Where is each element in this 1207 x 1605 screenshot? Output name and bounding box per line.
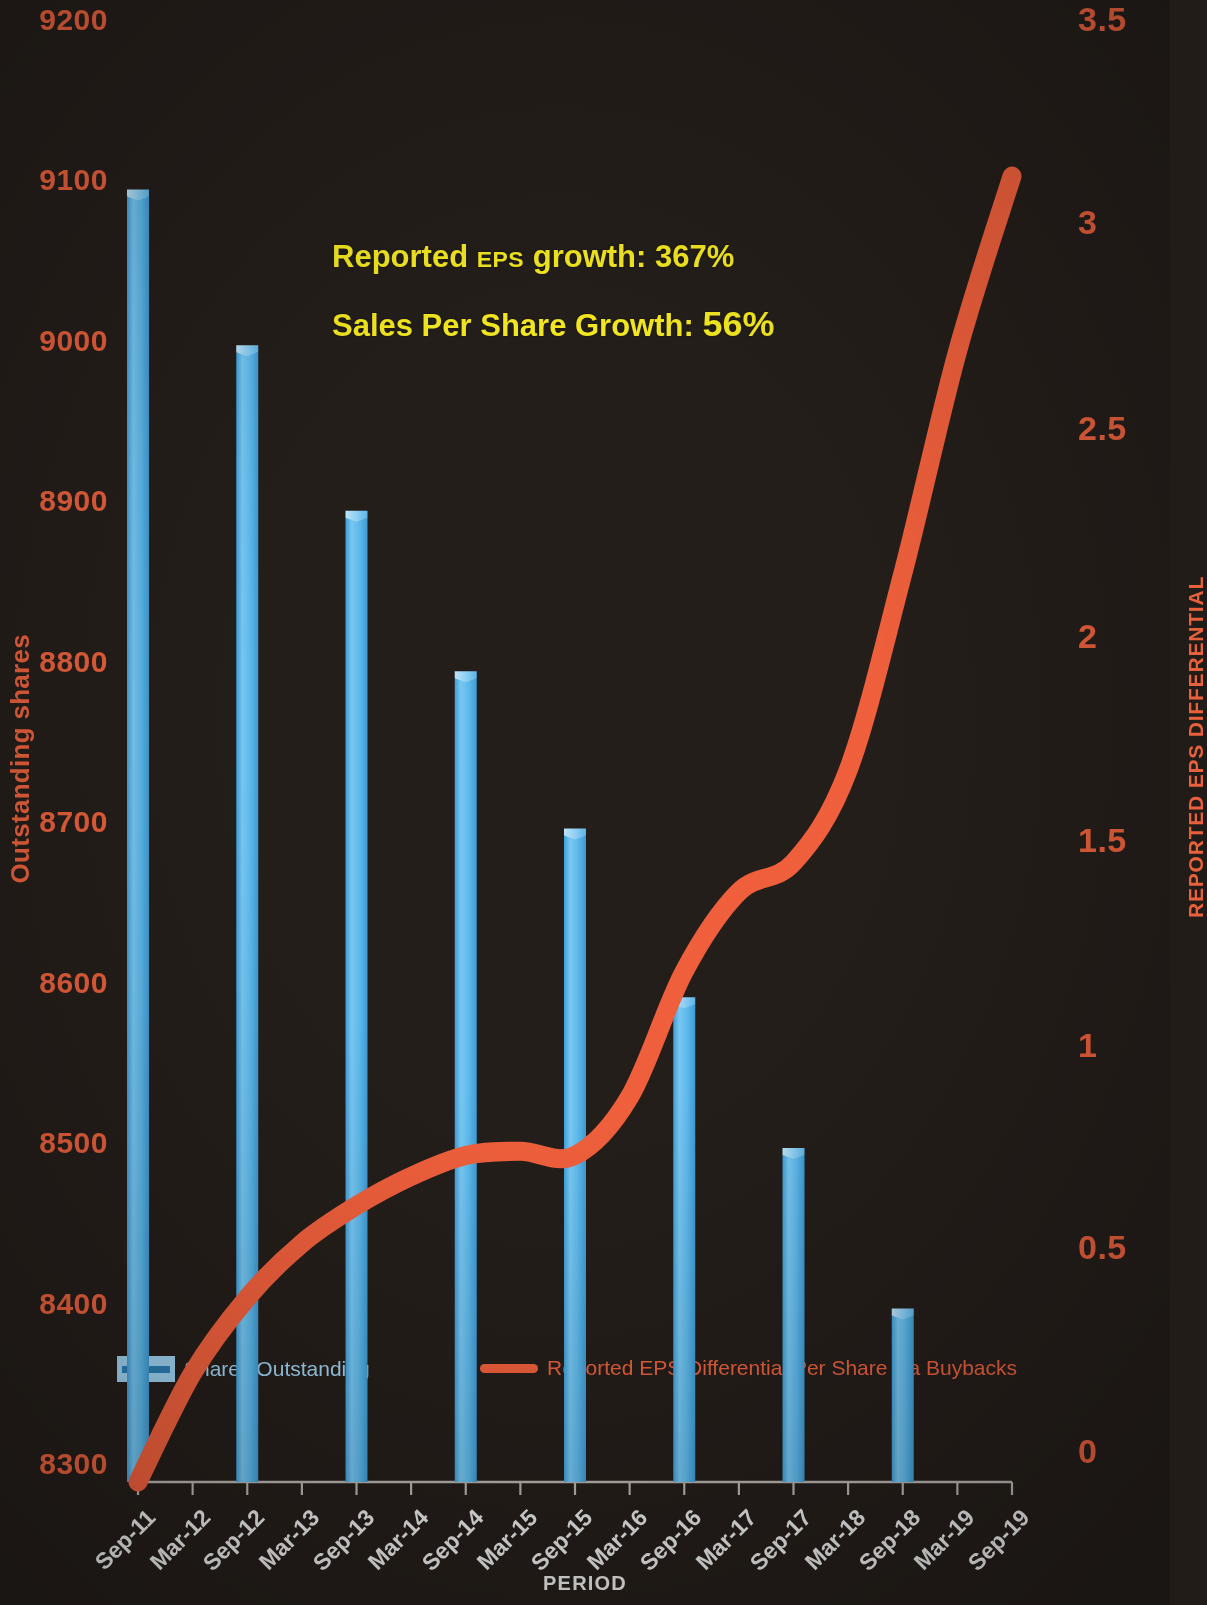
bar-Sep-14	[455, 671, 477, 1482]
y-axis-right-title: REPORTED EPS DIFFERENTIAL	[1184, 537, 1207, 957]
bar-Sep-16	[673, 997, 695, 1482]
bar-Sep-18	[892, 1309, 914, 1482]
bar-Sep-13	[346, 511, 368, 1482]
bar-Sep-11	[127, 190, 149, 1482]
bar-Sep-17	[783, 1148, 805, 1482]
